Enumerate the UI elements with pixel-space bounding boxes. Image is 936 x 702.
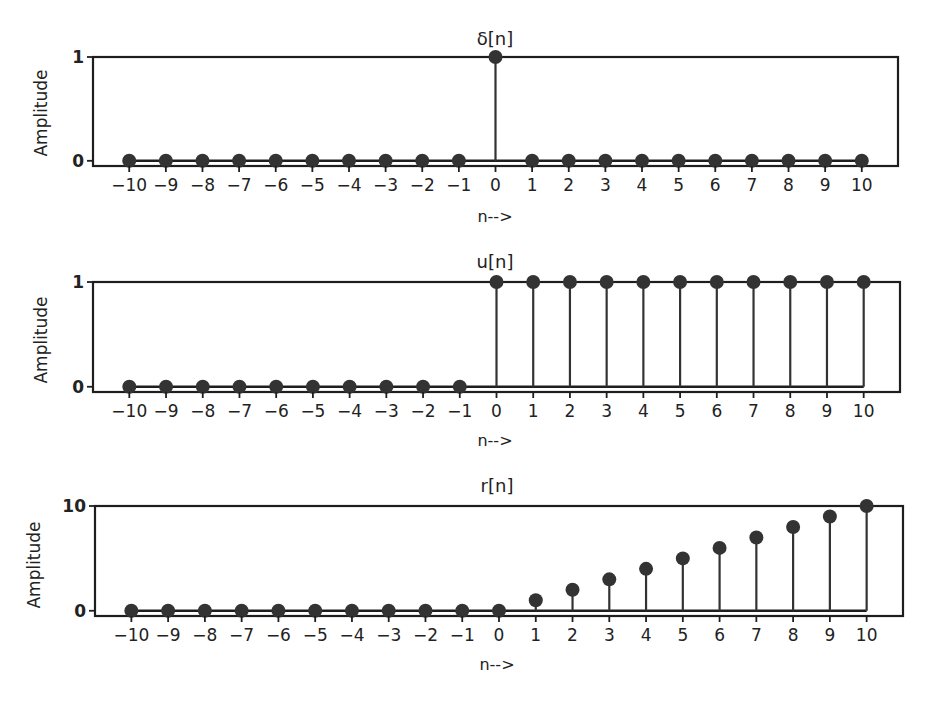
x-tick-label: 8 [783, 175, 794, 195]
x-tick-label: 2 [567, 625, 578, 645]
axes-frame [95, 506, 903, 616]
stem-marker [566, 583, 580, 597]
x-tick-label: −4 [339, 625, 364, 645]
x-tick-label: 6 [710, 175, 721, 195]
x-axis-label: n--> [477, 431, 512, 450]
stem-marker [636, 275, 650, 289]
x-tick-label: −7 [229, 625, 254, 645]
x-tick-label: −5 [303, 625, 328, 645]
stem-marker [232, 154, 246, 168]
stem-marker [305, 154, 319, 168]
x-axis-label: n--> [477, 207, 512, 226]
x-tick-label: −2 [410, 175, 435, 195]
stem-marker [271, 604, 285, 618]
stem-marker [823, 509, 837, 523]
stem-marker [308, 604, 322, 618]
x-tick-label: 9 [824, 625, 835, 645]
y-axis-label: Amplitude [24, 521, 44, 608]
x-tick-label: −8 [192, 625, 217, 645]
stem-marker [855, 154, 869, 168]
stem-marker [195, 154, 209, 168]
x-tick-label: −10 [111, 401, 147, 421]
stem-marker [382, 604, 396, 618]
stem-marker [452, 154, 466, 168]
x-tick-label: 7 [746, 175, 757, 195]
x-tick-label: 4 [638, 401, 649, 421]
x-tick-label: 9 [820, 175, 831, 195]
x-tick-label: 10 [851, 175, 873, 195]
stem-marker [708, 154, 722, 168]
stem-marker [529, 593, 543, 607]
subplot-title: u[n] [477, 251, 514, 272]
stem-marker [676, 551, 690, 565]
plot-area: −10−9−8−7−6−5−4−3−2−1012345678910010 [62, 496, 903, 645]
stem-marker [563, 275, 577, 289]
x-tick-label: −9 [156, 625, 181, 645]
x-tick-label: −2 [413, 625, 438, 645]
y-axis-label: Amplitude [31, 296, 51, 383]
stem-marker [161, 604, 175, 618]
y-tick-label: 1 [72, 272, 84, 292]
x-tick-label: −3 [376, 625, 401, 645]
subplot-title: δ[n] [477, 28, 513, 49]
x-tick-label: 10 [856, 625, 878, 645]
x-tick-label: 10 [853, 401, 875, 421]
stem-marker [820, 275, 834, 289]
subplot-title: r[n] [481, 475, 514, 496]
stem-marker [418, 604, 432, 618]
subplot-unit-step: u[n] n--> Amplitude −10−9−8−7−6−5−4−3−2−… [31, 251, 900, 450]
x-tick-label: 4 [641, 625, 652, 645]
stem-marker [379, 154, 393, 168]
stem-marker [857, 275, 871, 289]
stem-marker [453, 380, 467, 394]
stem-marker [124, 604, 138, 618]
stem-marker [673, 275, 687, 289]
stem-marker [122, 154, 136, 168]
stem-marker [525, 154, 539, 168]
stem-marker [379, 380, 393, 394]
y-tick-label: 10 [62, 496, 86, 516]
x-tick-label: −8 [190, 175, 215, 195]
stem-marker [416, 380, 430, 394]
stem-marker [672, 154, 686, 168]
x-tick-label: 0 [490, 175, 501, 195]
stem-marker [786, 520, 800, 534]
plot-area: −10−9−8−7−6−5−4−3−2−101234567891001 [72, 47, 898, 195]
stem-marker [745, 154, 759, 168]
stem-marker [159, 380, 173, 394]
y-tick-label: 0 [74, 601, 86, 621]
x-tick-label: −1 [450, 625, 475, 645]
stem-marker [306, 380, 320, 394]
subplot-ramp: r[n] n--> Amplitude −10−9−8−7−6−5−4−3−2−… [24, 475, 903, 674]
x-axis-label: n--> [479, 655, 514, 674]
x-tick-label: −8 [190, 401, 215, 421]
y-tick-label: 0 [72, 151, 84, 171]
x-tick-label: −1 [446, 175, 471, 195]
x-tick-label: 4 [637, 175, 648, 195]
subplot-delta: δ[n] n--> Amplitude −10−9−8−7−6−5−4−3−2−… [31, 28, 898, 226]
stem-marker [122, 380, 136, 394]
x-tick-label: 3 [604, 625, 615, 645]
y-axis-label: Amplitude [31, 69, 51, 156]
x-tick-label: 1 [530, 625, 541, 645]
x-tick-label: −9 [154, 401, 179, 421]
x-tick-label: 9 [822, 401, 833, 421]
x-tick-label: −4 [336, 175, 361, 195]
figure: δ[n] n--> Amplitude −10−9−8−7−6−5−4−3−2−… [0, 0, 936, 702]
x-tick-label: −3 [373, 175, 398, 195]
x-tick-label: 8 [788, 625, 799, 645]
stem-marker [196, 380, 210, 394]
x-tick-label: 7 [751, 625, 762, 645]
stem-marker [269, 380, 283, 394]
stem-marker [749, 530, 763, 544]
stem-marker [232, 380, 246, 394]
stem-marker [342, 154, 356, 168]
stem-marker [747, 275, 761, 289]
x-tick-label: 6 [711, 401, 722, 421]
x-tick-label: −2 [411, 401, 436, 421]
stem-marker [492, 604, 506, 618]
x-tick-label: 6 [714, 625, 725, 645]
y-tick-label: 0 [72, 377, 84, 397]
x-tick-label: −9 [153, 175, 178, 195]
x-tick-label: 1 [528, 401, 539, 421]
